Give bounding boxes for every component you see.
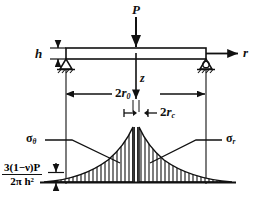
stress-magnitude-dimension: [48, 163, 64, 191]
stress-distribution-area: [40, 127, 236, 182]
thickness-label: h: [35, 47, 42, 60]
stress-curve-left: [44, 127, 133, 182]
stress-magnitude-denominator: 2π h2: [2, 174, 42, 187]
stress-curve-right: [139, 127, 232, 182]
contact-diameter-label: 2rc: [160, 105, 175, 120]
stress-distribution-figure: P h r z 2r0 2rc σθ σr 3(1−ν)P 2π h2: [0, 0, 266, 216]
load-label: P: [132, 3, 140, 16]
radial-axis-label: r: [243, 46, 248, 59]
stress-magnitude-numerator: 3(1−ν)P: [2, 162, 42, 174]
contact-diameter-dimension: [124, 100, 157, 117]
stress-radial-label: σr: [226, 132, 235, 146]
plate-diameter-label: 2r0: [115, 86, 131, 101]
stress-magnitude-label: 3(1−ν)P 2π h2: [2, 162, 42, 187]
stress-tangential-label: σθ: [26, 132, 36, 146]
depth-axis-label: z: [140, 72, 145, 84]
